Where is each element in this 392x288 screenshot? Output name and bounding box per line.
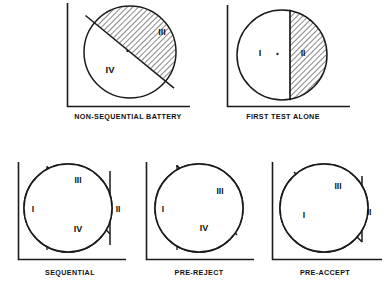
region-label-I: I: [162, 204, 164, 214]
caption-non-sequential-battery: NON-SEQUENTIAL BATTERY: [60, 112, 196, 121]
caption-pre-accept: PRE-ACCEPT: [268, 268, 382, 277]
center-dot: [276, 53, 278, 55]
region-label-II: II: [367, 207, 372, 217]
region-II-hatch: [290, 4, 350, 106]
circle-rim-overstroke: [24, 164, 112, 252]
diagram-pre-accept: I III II: [268, 158, 392, 268]
region-II-hatch: [110, 150, 134, 266]
region-label-III: III: [74, 175, 81, 185]
circle-rim-overstroke: [155, 164, 243, 252]
caption-pre-reject: PRE-REJECT: [142, 268, 256, 277]
region-label-I: I: [259, 48, 262, 58]
figure-region-diagrams: III IV NON-SEQUENTIAL BATTERY I II FIRST…: [0, 0, 392, 288]
diagram-pre-reject: I III IV: [142, 158, 264, 268]
region-label-IV: IV: [74, 224, 83, 234]
caption-sequential: SEQUENTIAL: [14, 268, 126, 277]
panel-pre-reject: I III IV PRE-REJECT: [142, 158, 264, 288]
region-label-IV: IV: [200, 223, 209, 233]
caption-first-test-alone: FIRST TEST ALONE: [222, 112, 344, 121]
region-label-II: II: [116, 204, 121, 214]
region-label-I: I: [303, 210, 305, 220]
region-label-III: III: [216, 186, 223, 196]
region-label-III: III: [158, 27, 166, 37]
diagram-first-test-alone: I II: [222, 0, 362, 112]
panel-first-test-alone: I II FIRST TEST ALONE: [222, 0, 362, 130]
panel-sequential: I III II IV SEQUENTIAL: [14, 158, 136, 288]
region-label-III: III: [334, 181, 341, 191]
panel-non-sequential-battery: III IV NON-SEQUENTIAL BATTERY: [60, 0, 196, 130]
region-label-I: I: [32, 204, 34, 214]
panel-pre-accept: I III II PRE-ACCEPT: [268, 158, 392, 288]
diagram-non-sequential-battery: III IV: [60, 0, 196, 112]
circle-rim-overstroke: [280, 164, 368, 252]
region-label-IV: IV: [106, 64, 116, 75]
center-dot: [126, 50, 128, 52]
region-label-II: II: [301, 48, 306, 58]
diagram-sequential: I III II IV: [14, 158, 136, 268]
